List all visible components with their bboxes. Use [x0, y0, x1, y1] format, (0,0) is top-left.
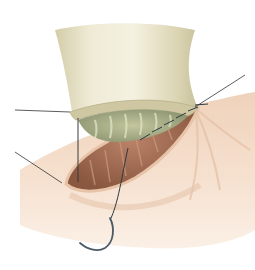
- surgical-illustration: [0, 0, 255, 270]
- illustration-svg: [0, 0, 255, 270]
- leader-graft-rim: [15, 110, 70, 112]
- graft-cylinder: [55, 23, 198, 112]
